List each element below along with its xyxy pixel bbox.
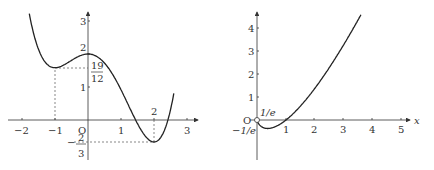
left-xtick-neg1: −1	[48, 125, 63, 136]
right-ytick-4: 4	[248, 23, 254, 34]
open-circle-origin	[255, 118, 260, 123]
right-chart: 1 2 3 4 5 x 1 2 3 4 O 1/e −1/e	[232, 12, 420, 160]
left-chart: −2 −1 O 1 3 1 3 2 19 12 2 − 2 3	[8, 12, 198, 160]
min-x-label: 1/e	[260, 107, 276, 118]
guide-local-min	[55, 68, 88, 120]
min-y-label: −1/e	[232, 125, 256, 136]
left-x2-label: 2	[151, 106, 157, 117]
left-xtick-1: 1	[118, 125, 124, 136]
right-xtick-2: 2	[311, 124, 317, 135]
frac-2: 2	[78, 132, 84, 143]
right-xtick-5: 5	[398, 124, 404, 135]
right-ytick-2: 2	[248, 69, 254, 80]
left-ytick-1: 1	[80, 82, 86, 93]
right-x-axis-label: x	[414, 115, 420, 126]
frac-19: 19	[91, 60, 104, 71]
frac-3: 3	[78, 148, 84, 159]
right-xtick-1: 1	[283, 124, 289, 135]
left-ytick-3: 3	[80, 16, 86, 27]
right-xtick-3: 3	[340, 124, 346, 135]
right-xtick-4: 4	[369, 124, 375, 135]
neg-sign: −	[67, 137, 75, 148]
right-ytick-3: 3	[248, 46, 254, 57]
frac-12: 12	[91, 73, 104, 84]
left-xtick-3: 3	[184, 125, 190, 136]
left-max-label: 2	[80, 42, 86, 53]
right-ytick-1: 1	[248, 92, 254, 103]
figure: −2 −1 O 1 3 1 3 2 19 12 2 − 2 3 1 2	[0, 0, 434, 170]
left-xtick-neg2: −2	[14, 125, 29, 136]
